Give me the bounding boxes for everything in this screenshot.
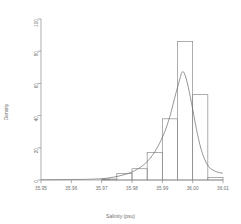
histogram-bar [178,42,193,180]
histogram-figure: 35.9535.9635.9735.9835.9936.0036.01 0204… [0,0,241,224]
x-tick-label: 35.97 [96,186,108,191]
histogram-bar [147,153,162,180]
y-tick-label: 80 [34,51,39,56]
y-tick-label: 100 [34,19,39,27]
x-tick-label: 35.99 [156,186,168,191]
x-tick-label: 36.00 [187,186,199,191]
x-tick-label: 36.01 [217,186,229,191]
y-tick-label: 60 [34,83,39,88]
y-axis-title: Density [3,104,9,121]
x-tick-label: 35.98 [126,186,138,191]
histogram-bar [132,169,147,180]
y-tick-label: 0 [34,180,39,183]
histogram-bar [162,119,177,180]
y-tick-label: 20 [34,148,39,153]
x-tick-label: 35.95 [35,186,47,191]
histogram-bar [193,95,208,180]
y-tick-label: 40 [34,116,39,121]
x-axis-title: Salinity (psu) [106,213,135,219]
histogram-bar [208,178,223,180]
x-tick-label: 35.96 [65,186,77,191]
density-curve-path [41,72,223,180]
axis-lines [38,19,223,183]
